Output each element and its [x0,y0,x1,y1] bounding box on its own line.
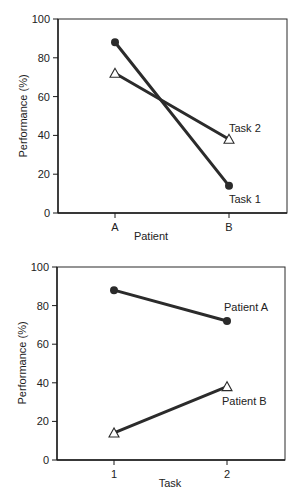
series-line [115,42,229,186]
x-ticks: AB [111,213,232,233]
x-axis-label: Patient [134,230,168,242]
circle-marker-icon [225,182,233,190]
y-tick-label: 0 [44,207,50,219]
x-axis-label: Task [159,477,182,489]
series-label-patient-a: Patient A [224,301,269,313]
series-line [114,290,227,321]
series-group [109,286,232,437]
y-axis-label: Performance (%) [17,74,29,157]
y-tick-label: 60 [37,338,49,350]
x-tick-label: B [225,221,232,233]
plot-frame [57,267,285,460]
y-ticks: 020406080100 [32,13,58,219]
y-tick-label: 80 [38,52,50,64]
triangle-marker-icon [222,382,232,391]
series-patient-b [109,382,232,437]
circle-marker-icon [111,38,119,46]
circle-marker-icon [110,286,118,294]
x-tick-label: A [111,221,119,233]
series-label-patient-b: Patient B [222,395,267,407]
x-tick-label: 2 [224,468,230,480]
y-tick-label: 80 [37,300,49,312]
y-tick-label: 40 [37,377,49,389]
series-line [115,73,229,139]
series-label-task-2: Task 2 [229,122,261,134]
chart-task-performance: 020406080100 12 Task Performance (%) Pat… [16,261,285,489]
y-tick-label: 60 [38,91,50,103]
y-tick-label: 0 [43,454,49,466]
x-tick-label: 1 [111,468,117,480]
figure: 020406080100 AB Patient Performance (%) … [0,0,303,499]
series-task-2 [110,68,234,143]
y-tick-label: 100 [32,13,50,25]
y-axis-label: Performance (%) [16,321,28,404]
series-patient-a [110,286,231,325]
series-task-1 [111,38,233,190]
y-ticks: 020406080100 [31,261,57,466]
circle-marker-icon [223,317,231,325]
series-group [110,38,234,190]
y-tick-label: 40 [38,129,50,141]
y-tick-label: 20 [37,415,49,427]
y-tick-label: 20 [38,168,50,180]
series-label-task-1: Task 1 [229,193,261,205]
y-tick-label: 100 [31,261,49,273]
chart-patient-performance: 020406080100 AB Patient Performance (%) … [17,13,287,242]
series-line [114,387,227,433]
triangle-marker-icon [110,68,120,77]
